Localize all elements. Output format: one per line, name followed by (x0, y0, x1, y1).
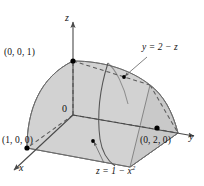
solid-region-diagram (0, 0, 204, 186)
label-equation-plane: y = 2 − z (142, 43, 178, 53)
leader-plane-target (122, 75, 126, 79)
label-axis-z: z (65, 13, 69, 23)
label-point-y: (0, 2, 0) (140, 136, 171, 146)
leader-cylinder-target (91, 139, 95, 143)
label-axis-y: y (189, 132, 194, 142)
equation-cylinder-base: z = 1 − x (96, 166, 132, 176)
label-point-z: (0, 0, 1) (4, 48, 35, 58)
label-origin: 0 (62, 104, 67, 114)
label-point-x: (1, 0, 0) (2, 136, 33, 146)
leader-plane (125, 57, 147, 76)
equation-cylinder-exponent: 2 (132, 164, 135, 171)
point-dot-x (24, 145, 29, 150)
label-equation-cylinder: z = 1 − x2 (96, 165, 135, 177)
figure-container: (0, 0, 1) (1, 0, 0) (0, 2, 0) y = 2 − z … (0, 0, 204, 186)
label-axis-x: x (19, 163, 24, 173)
point-dot-z (70, 58, 75, 63)
point-dot-y (154, 125, 159, 130)
